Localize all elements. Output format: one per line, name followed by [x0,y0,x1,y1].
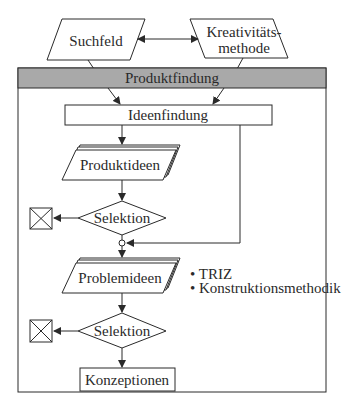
connector-line [237,58,243,69]
step-problemideen-label: Problemideen [78,270,162,286]
input-suchfeld-label: Suchfeld [69,33,123,49]
step-ideenfindung-label: Ideenfindung [128,107,208,123]
step-konzeptionen-label: Konzeptionen [85,372,170,388]
method-konstruktionsmethodik: • Konstruktionsmethodik [190,280,341,296]
input-suchfeld: Suchfeld [47,19,145,60]
frame-title: Produktfindung [125,70,220,86]
input-kreativitaetsmethode: Kreativitäts- methode [190,19,288,58]
step-konzeptionen: Konzeptionen [80,368,175,391]
input-kreativitaet-label-line2: methode [218,40,270,56]
junction-node [119,240,125,246]
decision-selektion-1-label: Selektion [94,210,151,226]
step-produktideen: Produktideen [62,145,180,180]
discard-icon [30,320,52,342]
step-problemideen: Problemideen [62,258,180,293]
decision-selektion-2-label: Selektion [94,323,151,339]
discard-icon [30,208,52,229]
input-kreativitaet-label-line1: Kreativitäts- [207,24,282,40]
step-ideenfindung: Ideenfindung [65,105,272,125]
step-produktideen-label: Produktideen [80,157,160,173]
flowchart: Suchfeld Kreativitäts- methode Produktfi… [0,0,342,416]
